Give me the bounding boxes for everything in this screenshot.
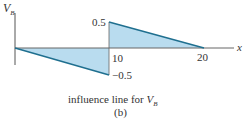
y-axis-label: VB xyxy=(3,2,15,17)
x-axis-label: x xyxy=(237,42,242,53)
value-negative: −0.5 xyxy=(112,70,132,81)
caption-part: (b) xyxy=(114,107,127,118)
caption: influence line for VB xyxy=(68,94,158,108)
tick-10: 10 xyxy=(112,53,123,64)
tick-20: 20 xyxy=(197,52,208,63)
value-positive: 0.5 xyxy=(92,17,106,28)
